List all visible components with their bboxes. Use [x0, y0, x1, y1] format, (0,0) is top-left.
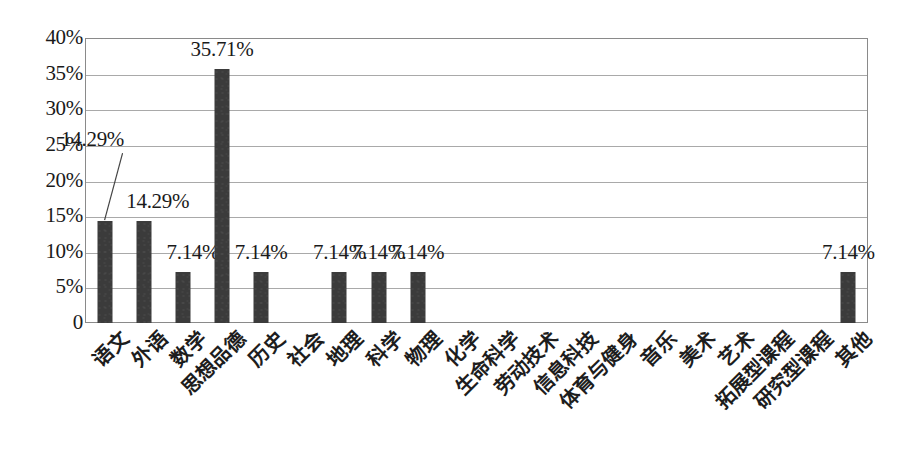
- bar[interactable]: [136, 221, 151, 323]
- bar[interactable]: [175, 272, 190, 323]
- bar-value-label: 7.14%: [391, 242, 444, 263]
- x-axis-tick-label: 历史: [245, 327, 289, 371]
- bar[interactable]: [215, 69, 230, 323]
- x-axis-tick-label: 美术: [676, 327, 720, 371]
- x-axis-tick-label: 其他: [832, 327, 876, 371]
- x-axis-tick-label: 音乐: [636, 327, 680, 371]
- bar[interactable]: [371, 272, 386, 323]
- y-axis: 40%35%30%25%20%15%10%5%0: [0, 38, 83, 323]
- y-axis-tick-label: 35%: [5, 63, 83, 84]
- y-axis-tick-label: 30%: [5, 98, 83, 119]
- bar-slot: [829, 38, 868, 323]
- bar-slot: [202, 38, 241, 323]
- x-axis-tick-label: 地理: [323, 327, 367, 371]
- bar[interactable]: [97, 221, 112, 323]
- y-axis-tick-label: 20%: [5, 170, 83, 191]
- bars-layer: 14.29%14.29%7.14%35.71%7.14%7.14%7.14%7.…: [85, 38, 868, 323]
- bar-slot: [359, 38, 398, 323]
- bar-value-label: 14.29%: [61, 129, 124, 150]
- bar[interactable]: [254, 272, 269, 323]
- x-axis: 语文外语数学思想品德历史社会地理科学物理化学生命科学劳动技术信息科技体育与健身音…: [85, 323, 868, 454]
- bar[interactable]: [410, 272, 425, 323]
- x-axis-tick-label: 社会: [284, 327, 328, 371]
- bar-slot: [242, 38, 281, 323]
- bar[interactable]: [332, 272, 347, 323]
- y-axis-tick-label: 10%: [5, 241, 83, 262]
- bar-value-label: 7.14%: [235, 242, 288, 263]
- bar-value-label: 7.14%: [822, 242, 875, 263]
- y-axis-tick-label: 0: [5, 312, 83, 333]
- x-axis-tick-label: 物理: [401, 327, 445, 371]
- x-axis-tick-label: 语文: [88, 327, 132, 371]
- bar-slot: [163, 38, 202, 323]
- bar-slot: [85, 38, 124, 323]
- y-axis-tick-label: 40%: [5, 27, 83, 48]
- bar-slot: [124, 38, 163, 323]
- bar-chart: 40%35%30%25%20%15%10%5%0 14.29%14.29%7.1…: [0, 0, 898, 454]
- x-axis-tick-label: 外语: [127, 327, 171, 371]
- y-axis-tick-label: 5%: [5, 276, 83, 297]
- y-axis-tick-label: 15%: [5, 205, 83, 226]
- bar-slot: [398, 38, 437, 323]
- x-axis-tick-label: 科学: [362, 327, 406, 371]
- bar-slot: [320, 38, 359, 323]
- bar[interactable]: [841, 272, 856, 323]
